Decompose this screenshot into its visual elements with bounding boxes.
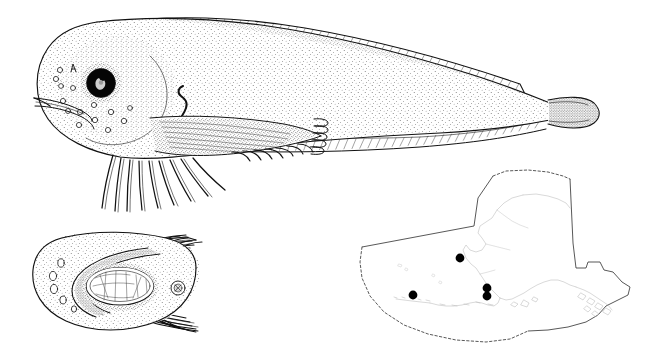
eez-boundary (360, 170, 630, 342)
locality-dot: Alaska Peninsula record b (483, 292, 492, 301)
locality-dot: northern Bering Sea record (456, 254, 465, 263)
distribution-map-figure: northern Bering Sea recordwestern Aleuti… (0, 0, 654, 359)
locality-dots: northern Bering Sea recordwestern Aleuti… (409, 254, 492, 301)
locality-dot: Alaska Peninsula record a (483, 284, 492, 293)
illustration-plate: northern Bering Sea recordwestern Aleuti… (0, 0, 654, 359)
locality-dot: western Aleutian record (409, 291, 418, 300)
alaska-coastline (394, 194, 612, 317)
